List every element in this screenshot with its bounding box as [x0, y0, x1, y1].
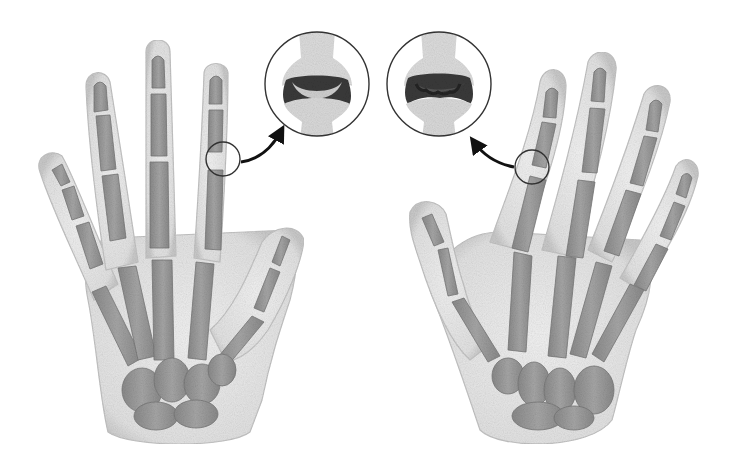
arthritic-joint-arrow — [474, 142, 514, 167]
healthy-joint-zoom — [265, 30, 369, 140]
healthy-hand — [39, 40, 304, 444]
healthy-joint-arrow — [241, 131, 281, 162]
arthritic-joint-zoom — [387, 30, 491, 140]
illustration-canvas — [0, 0, 732, 476]
hand-arthritis-illustration: Comparison of healthy hand vs arthritic … — [0, 0, 732, 476]
